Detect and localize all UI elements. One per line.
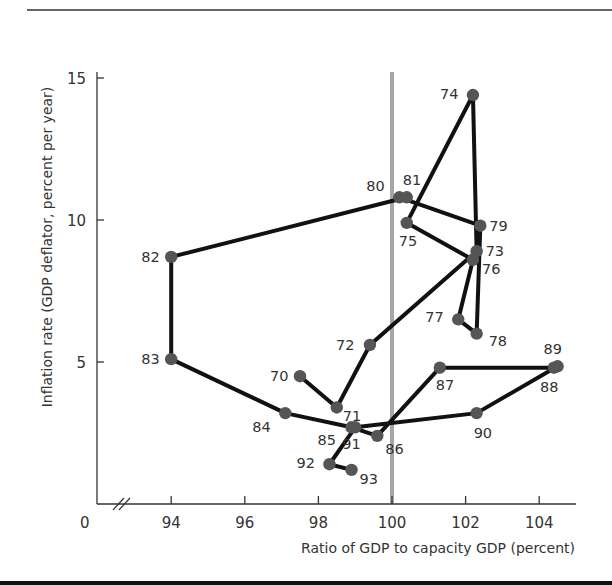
data-points — [165, 89, 564, 476]
data-path — [171, 95, 557, 470]
data-point-79 — [474, 219, 486, 231]
y-tick-label: 5 — [76, 354, 86, 372]
bottom-border-rule — [0, 581, 612, 585]
x-tick-label: 96 — [235, 514, 254, 532]
data-point-70 — [294, 370, 306, 382]
inflation-vs-output-chart: 51015 949698100102104 0 Ratio of GDP to … — [0, 0, 612, 585]
x-tick-label: 98 — [309, 514, 328, 532]
point-label-92: 92 — [296, 455, 314, 471]
data-point-77 — [452, 313, 464, 325]
point-label-78: 78 — [489, 333, 507, 349]
point-label-83: 83 — [141, 351, 159, 367]
point-label-88: 88 — [540, 379, 558, 395]
reference-line-100 — [390, 72, 394, 504]
point-label-70: 70 — [270, 368, 288, 384]
point-label-90: 90 — [474, 425, 492, 441]
data-point-89 — [551, 360, 563, 372]
data-point-92 — [323, 458, 335, 470]
point-label-71: 71 — [343, 408, 361, 424]
point-label-75: 75 — [399, 233, 417, 249]
point-label-89: 89 — [544, 341, 562, 357]
point-label-81: 81 — [403, 172, 421, 188]
point-label-76: 76 — [482, 261, 500, 277]
y-tick-label: 10 — [67, 212, 86, 230]
data-point-93 — [345, 464, 357, 476]
data-point-74 — [467, 89, 479, 101]
x-tick-label: 100 — [378, 514, 407, 532]
data-point-90 — [470, 407, 482, 419]
x-tick-label: 102 — [451, 514, 480, 532]
point-label-87: 87 — [436, 377, 454, 393]
x-tick-label: 104 — [525, 514, 554, 532]
point-label-79: 79 — [489, 218, 507, 234]
point-label-91: 91 — [342, 436, 360, 452]
x-tick-label: 94 — [162, 514, 181, 532]
point-label-82: 82 — [141, 249, 159, 265]
data-point-78 — [470, 327, 482, 339]
data-point-82 — [165, 251, 177, 263]
data-point-84 — [279, 407, 291, 419]
point-label-77: 77 — [425, 309, 443, 325]
data-point-87 — [434, 361, 446, 373]
y-tick-label: 15 — [67, 70, 86, 88]
data-point-72 — [364, 339, 376, 351]
y-axis: 51015 — [67, 70, 104, 504]
point-label-86: 86 — [385, 441, 403, 457]
point-label-80: 80 — [366, 178, 384, 194]
connected-path — [171, 95, 557, 470]
y-axis-title: Inflation rate (GDP deflator, percent pe… — [39, 87, 55, 408]
point-label-72: 72 — [336, 337, 354, 353]
data-point-76 — [467, 254, 479, 266]
data-point-83 — [165, 353, 177, 365]
origin-label: 0 — [80, 514, 90, 532]
reference-line — [390, 72, 394, 504]
data-point-71 — [331, 401, 343, 413]
data-point-86 — [371, 430, 383, 442]
x-axis: 949698100102104 — [97, 496, 576, 532]
point-label-74: 74 — [440, 86, 458, 102]
point-label-84: 84 — [252, 419, 270, 435]
x-axis-title: Ratio of GDP to capacity GDP (percent) — [301, 540, 575, 556]
point-label-85: 85 — [318, 432, 336, 448]
point-label-73: 73 — [486, 243, 504, 259]
data-point-75 — [401, 217, 413, 229]
point-label-93: 93 — [360, 471, 378, 487]
data-point-81 — [401, 191, 413, 203]
